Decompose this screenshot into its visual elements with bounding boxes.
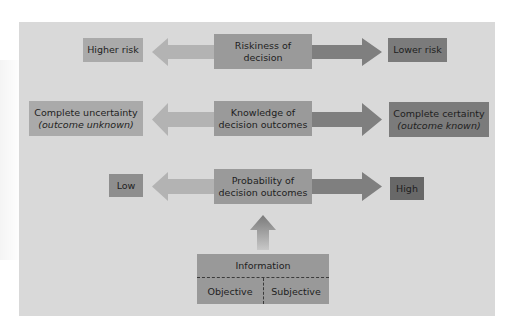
complete-uncertainty-label: Complete uncertainty [34,107,137,119]
low-label: Low [117,180,136,192]
right-arrow-icon [312,171,382,202]
right-arrow-icon [312,37,382,67]
riskiness-line2: decision [243,52,282,64]
probability-line1: Probability of [232,175,294,187]
complete-certainty-label: Complete certainty [393,108,484,120]
complete-uncertainty-box: Complete uncertainty (outcome unknown) [29,101,143,136]
information-box: Information Objective Subjective [197,254,329,304]
higher-risk-label: Higher risk [87,44,139,56]
higher-risk-box: Higher risk [83,38,143,62]
lower-risk-box: Lower risk [388,38,447,62]
objective-label: Objective [197,278,263,304]
left-arrow-icon [152,171,214,202]
knowledge-line1: Knowledge of [231,107,295,119]
complete-certainty-box: Complete certainty (outcome known) [389,102,489,137]
lower-risk-label: Lower risk [393,44,441,56]
left-arrow-icon [152,103,214,136]
knowledge-box: Knowledge of decision outcomes [214,101,312,136]
riskiness-line1: Riskiness of [235,40,291,52]
high-label: High [396,183,418,195]
high-box: High [390,177,424,200]
riskiness-box: Riskiness of decision [214,34,312,69]
outcome-known-label: (outcome known) [397,120,480,132]
outcome-unknown-label: (outcome unknown) [38,119,133,131]
up-arrow-icon [250,215,276,250]
knowledge-line2: decision outcomes [219,119,308,131]
information-title: Information [197,254,329,277]
low-box: Low [109,174,143,197]
probability-box: Probability of decision outcomes [214,169,312,204]
probability-line2: decision outcomes [219,187,308,199]
right-arrow-icon [312,103,382,136]
left-arrow-icon [152,37,214,67]
subjective-label: Subjective [263,278,329,304]
